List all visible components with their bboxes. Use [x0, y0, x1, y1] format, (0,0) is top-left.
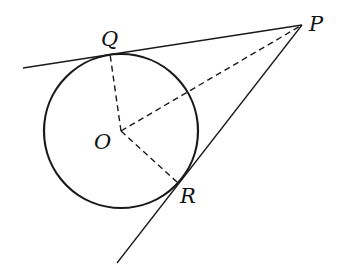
radius-or-dashed: [121, 131, 177, 182]
radius-oq-dashed: [110, 54, 121, 131]
tangent-line-pq: [23, 25, 302, 68]
segment-op-dashed: [121, 25, 302, 131]
label-p: P: [308, 12, 324, 36]
label-o: O: [94, 130, 111, 154]
geometry-diagram: P Q O R: [0, 0, 338, 265]
label-q: Q: [101, 27, 118, 51]
label-r: R: [179, 184, 196, 208]
tangent-line-pr: [117, 25, 302, 263]
